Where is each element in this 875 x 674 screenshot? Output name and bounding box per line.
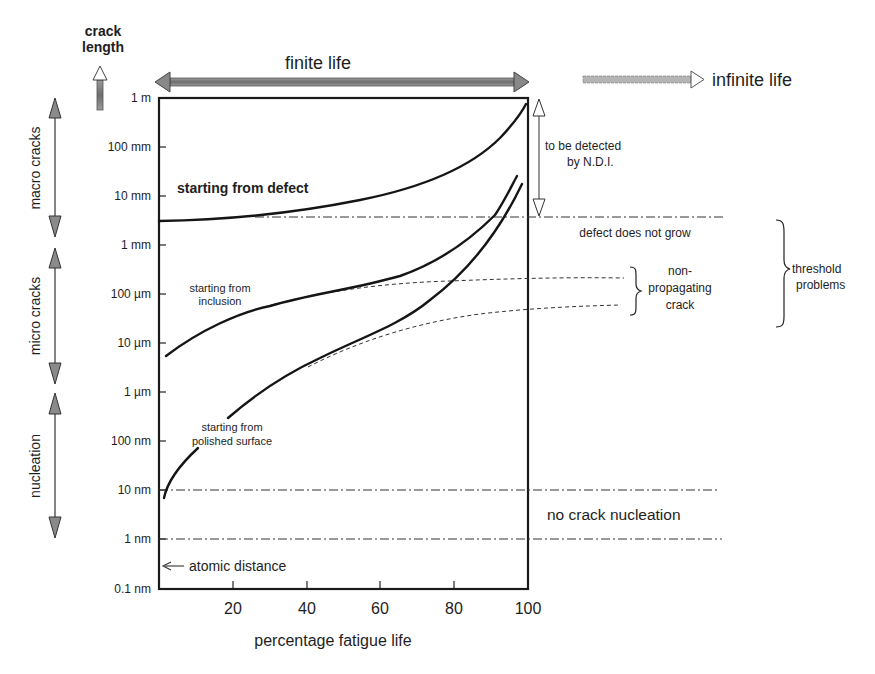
nonprop-label-1: non- — [668, 264, 692, 278]
atomic-distance-arrow-icon — [163, 562, 184, 570]
ndi-detection-range-arrow — [533, 99, 545, 216]
curve-starting-from-polished-surface — [228, 184, 522, 418]
svg-text:length: length — [82, 39, 124, 55]
polished-curve-label-2: polished surface — [192, 435, 272, 447]
ndi-label-1: to be detected — [545, 139, 621, 153]
svg-text:40: 40 — [298, 600, 316, 617]
atomic-distance-label: atomic distance — [189, 558, 286, 574]
svg-text:1 mm: 1 mm — [121, 238, 151, 252]
svg-text:60: 60 — [371, 600, 389, 617]
y-axis-ticks: 1 m 100 mm 10 mm 1 mm 100 µm 10 µm 1 µm … — [108, 91, 166, 596]
nonprop-inclusion-curve — [268, 278, 624, 306]
plot-frame — [159, 98, 528, 589]
x-axis-ticks: 20 40 60 80 100 — [224, 581, 541, 617]
nonprop-polished-curve — [308, 305, 621, 367]
finite-life-label: finite life — [285, 53, 351, 73]
curve-starting-from-defect — [159, 104, 526, 221]
svg-text:crack: crack — [85, 23, 122, 39]
nonprop-label-2: propagating — [648, 281, 711, 295]
defect-does-not-grow-label: defect does not grow — [579, 226, 691, 240]
svg-text:10 mm: 10 mm — [114, 189, 151, 203]
threshold-label-2: problems — [796, 278, 845, 292]
nucleation-range-arrow — [49, 393, 61, 538]
svg-text:100: 100 — [515, 600, 542, 617]
svg-text:100 mm: 100 mm — [108, 140, 151, 154]
micro-cracks-range-arrow — [49, 248, 61, 384]
svg-text:1 µm: 1 µm — [124, 385, 151, 399]
macro-cracks-label: macro cracks — [27, 126, 43, 209]
svg-text:10 nm: 10 nm — [118, 483, 151, 497]
svg-text:80: 80 — [445, 600, 463, 617]
macro-cracks-range-arrow — [49, 98, 61, 237]
no-crack-nucleation-label: no crack nucleation — [547, 506, 681, 523]
finite-life-arrow-icon — [155, 72, 529, 92]
threshold-brace-icon — [776, 220, 790, 327]
fatigue-crack-growth-diagram: crack length finite life infinite life m… — [0, 0, 875, 674]
micro-cracks-label: micro cracks — [27, 277, 43, 356]
y-axis-title: crack length — [82, 23, 124, 55]
threshold-label-1: threshold — [792, 262, 841, 276]
svg-text:1 nm: 1 nm — [124, 532, 151, 546]
svg-text:0.1 nm: 0.1 nm — [114, 582, 151, 596]
inclusion-curve-label-1: starting from — [189, 282, 250, 294]
defect-curve-label: starting from defect — [177, 180, 309, 196]
crack-length-up-arrow-icon — [93, 66, 107, 110]
nucleation-label: nucleation — [27, 434, 43, 498]
svg-text:1 m: 1 m — [131, 91, 151, 105]
polished-curve-label-1: starting from — [201, 421, 262, 433]
svg-text:100 µm: 100 µm — [111, 287, 151, 301]
svg-text:10 µm: 10 µm — [117, 336, 151, 350]
nonprop-label-3: crack — [666, 298, 696, 312]
infinite-life-label: infinite life — [712, 70, 792, 90]
infinite-life-arrow-icon — [583, 71, 704, 88]
svg-text:100 nm: 100 nm — [111, 434, 151, 448]
nonprop-brace-icon — [630, 267, 641, 315]
ndi-label-2: by N.D.I. — [567, 155, 614, 169]
inclusion-curve-label-2: inclusion — [199, 295, 242, 307]
svg-text:20: 20 — [224, 600, 242, 617]
x-axis-title: percentage fatigue life — [254, 632, 412, 649]
